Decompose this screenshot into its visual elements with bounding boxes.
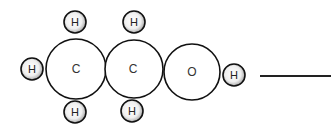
atom-h-top-1: H <box>64 11 86 33</box>
atom-h-bottom-2: H <box>121 100 143 122</box>
atom-h-top-2: H <box>123 11 145 33</box>
atom-h-left: H <box>21 58 43 80</box>
atom-label: C <box>72 62 81 76</box>
atom-label: H <box>71 16 79 28</box>
atom-label: O <box>187 65 196 79</box>
atom-label: C <box>129 62 138 76</box>
atom-o: O <box>164 44 220 100</box>
atom-label: H <box>71 106 79 118</box>
atom-h-right: H <box>223 64 245 86</box>
atom-label: H <box>230 69 238 81</box>
atom-h-bottom-1: H <box>64 101 86 123</box>
atom-label: H <box>128 105 136 117</box>
atom-label: H <box>28 63 36 75</box>
molecule-diagram: H H H H H H C C O <box>0 0 331 135</box>
atom-c1: C <box>46 39 106 99</box>
atom-c2: C <box>105 40 163 98</box>
atom-label: H <box>130 16 138 28</box>
